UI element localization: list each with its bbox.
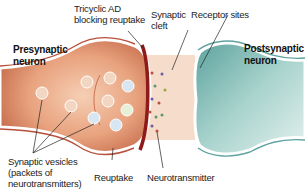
synapse-diagram: Tricyclic AD blocking reuptake Synaptic … (0, 0, 305, 195)
presynaptic-neuron-label: Presynaptic neuron (13, 44, 68, 68)
neurotransmitter-label: Neurotransmitter (147, 172, 215, 183)
receptor-sites-label: Receptor sites (191, 9, 249, 20)
reuptake-label: Reuptake (94, 172, 133, 183)
synaptic-cleft-label: Synaptic cleft (151, 9, 186, 31)
tricyclic-label: Tricyclic AD blocking reuptake (74, 3, 145, 25)
synaptic-vesicles-label: Synaptic vesicles (packets of neurotrans… (8, 156, 81, 189)
postsynaptic-neuron-label: Postsynaptic neuron (244, 43, 304, 67)
